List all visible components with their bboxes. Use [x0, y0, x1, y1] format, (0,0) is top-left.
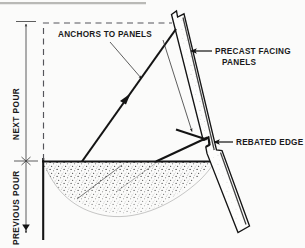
anchors-callout: ANCHORS TO PANELS — [58, 30, 192, 132]
form-dashed-outline — [44, 23, 173, 160]
previous-pour-label: PREVIOUS POUR — [12, 170, 21, 245]
anchor-upper-tie-node — [120, 94, 131, 105]
precast-facing-label-line1: PRECAST FACING — [215, 47, 291, 56]
next-pour-label: NEXT POUR — [12, 88, 21, 140]
anchor-leader-upper — [110, 42, 142, 79]
drawing-canvas: NEXT POUR PREVIOUS POUR — [0, 0, 305, 248]
anchors-to-panels-label: ANCHORS TO PANELS — [58, 30, 152, 39]
precast-callout: PRECAST FACING PANELS — [191, 47, 291, 67]
previous-pour-concrete — [42, 158, 215, 240]
next-pour-form-line — [44, 23, 173, 160]
dim-arrow-previous-pour-second-head — [22, 225, 30, 231]
precast-facing-label-line2: PANELS — [222, 58, 256, 67]
precast-facing-panel — [172, 11, 250, 233]
anchor-lower — [156, 138, 208, 162]
dimension-stack: NEXT POUR PREVIOUS POUR — [12, 22, 38, 246]
rebated-edge-label: REBATED EDGE — [236, 138, 304, 147]
rebated-callout: REBATED EDGE — [214, 138, 304, 147]
technical-drawing-figure: NEXT POUR PREVIOUS POUR — [0, 0, 305, 248]
